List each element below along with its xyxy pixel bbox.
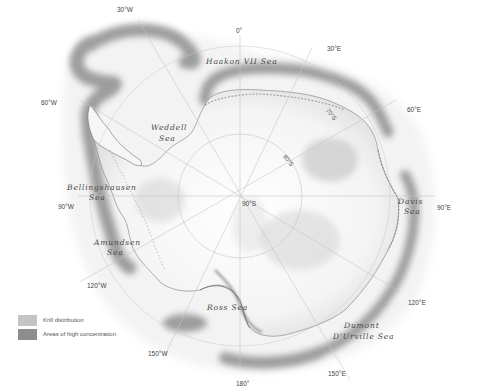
lon-label-150e: 150°E [328,370,346,377]
legend-label: Krill distribution [43,317,84,323]
sea-label-davis-line2: Sea [404,207,421,216]
lon-label-150w: 150°W [148,350,168,357]
sea-label-dumont-line1: Dumont [343,321,380,330]
sea-label-haakon: Haakon VII Sea [205,57,277,66]
lon-label-30e: 30°E [327,45,342,52]
legend-label: Areas of high concentration [43,331,116,337]
lon-label-120e: 120°E [408,299,426,306]
lon-label-90e: 90°E [437,204,452,211]
lon-label-180: 180° [236,380,250,387]
krill-distribution-swatch [18,315,37,326]
lon-label-60w: 60°W [41,99,58,106]
sea-label-amundsen-line1: Amundsen [93,238,141,247]
lon-label-120w: 120°W [87,282,107,289]
lon-label-30w: 30°W [117,6,134,13]
pole-label: 90°S [242,200,257,207]
high-concentration-swatch [18,329,37,340]
lon-label-60e: 60°E [407,106,422,113]
legend-item-high-concentration: Areas of high concentration [18,327,116,341]
sea-label-weddell-line2: Sea [159,134,176,143]
sea-label-dumont-line2: D'Urville Sea [332,332,394,341]
sea-label-weddell-line1: Weddell [151,123,187,132]
sea-label-amundsen-line2: Sea [107,248,124,257]
sea-label-ross: Ross Sea [206,303,248,312]
sea-label-bellingshausen-line1: Bellingshausen [66,183,137,192]
legend-item-krill-distribution: Krill distribution [18,313,116,327]
map-legend: Krill distribution Areas of high concent… [18,313,116,341]
sea-label-bellingshausen-line2: Sea [89,193,106,202]
lon-label-90w: 90°W [58,203,75,210]
sea-label-davis-line1: Davis [397,197,423,206]
lon-label-0: 0° [236,27,243,34]
